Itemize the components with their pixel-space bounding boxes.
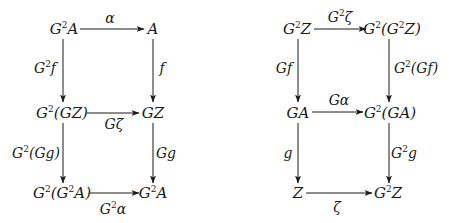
label-alpha: α xyxy=(105,10,114,26)
label-g2f: G2f xyxy=(34,60,56,76)
node-g2-ga: G2(GA) xyxy=(364,105,416,121)
node-g2-g2a: G2(G2A) xyxy=(33,185,91,201)
label-gf: Gf xyxy=(276,60,292,76)
node-a-top: A xyxy=(148,21,159,37)
node-g2a-top: G2A xyxy=(50,21,79,37)
label-galpha: Gα xyxy=(329,92,350,108)
label-gg: Gg xyxy=(156,145,176,161)
node-g2z-top: G2Z xyxy=(283,21,311,37)
label-g2zeta: G2ζ xyxy=(328,9,353,25)
node-g2z-bottom: G2Z xyxy=(374,185,402,201)
label-g2gg: G2(Gg) xyxy=(12,145,60,161)
node-ga: GA xyxy=(287,105,310,121)
label-zeta: ζ xyxy=(333,199,341,215)
label-f: f xyxy=(159,60,164,76)
commutative-diagrams: G2A A G2(GZ) GZ G2(G2A) G2A α G2f f Gζ G… xyxy=(0,0,449,223)
node-g2-g2z: G2(G2Z) xyxy=(363,21,421,37)
label-g2alpha: G2α xyxy=(100,201,126,217)
node-z: Z xyxy=(293,185,303,201)
label-g: g xyxy=(284,145,293,161)
label-g2gf: G2(Gf) xyxy=(394,60,438,76)
node-g2-gz: G2(GZ) xyxy=(36,105,88,121)
node-gz: GZ xyxy=(142,105,164,121)
label-gzeta: Gζ xyxy=(105,116,124,132)
label-g2g: G2g xyxy=(391,145,417,161)
node-g2a-bottom: G2A xyxy=(139,185,168,201)
